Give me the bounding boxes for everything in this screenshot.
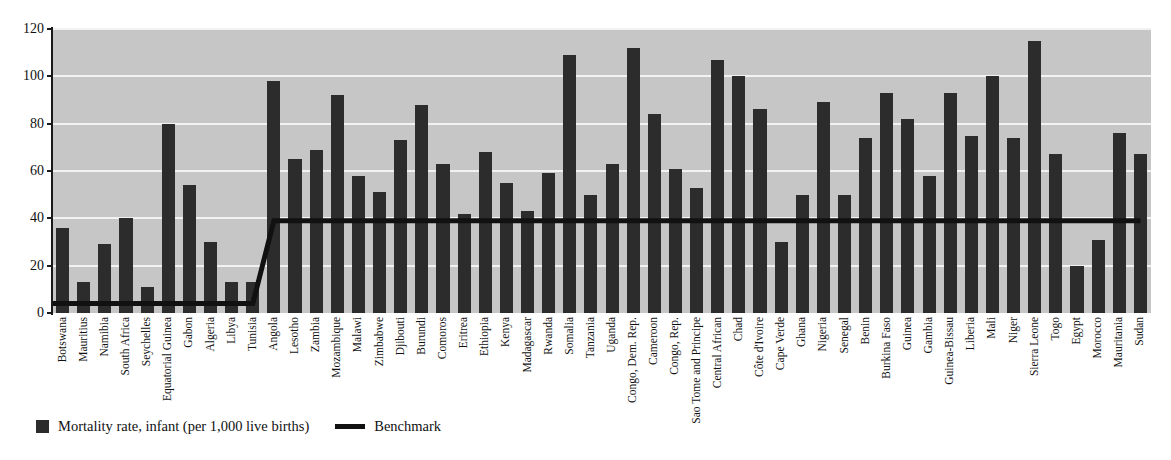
x-axis-tick: Zambia <box>306 317 327 397</box>
x-axis-tick-label: Equatorial Guinea <box>162 317 174 401</box>
x-axis-tick: Cape Verde <box>771 317 792 397</box>
x-axis-tick-label: Uganda <box>606 317 618 353</box>
x-axis-tick: Congo, Dem. Rep. <box>623 317 644 397</box>
x-axis-tick-label: Botswana <box>57 317 69 362</box>
x-axis-tick-label: South Africa <box>120 317 132 375</box>
y-axis-tick <box>47 28 53 30</box>
y-axis-tick-label: 60 <box>30 164 44 178</box>
x-axis-tick-label: Tanzania <box>585 317 597 358</box>
x-axis-tick: Ghana <box>792 317 813 397</box>
x-axis-labels: BotswanaMauritiusNamibiaSouth AfricaSeyc… <box>52 317 1151 397</box>
x-axis-tick: Eritrea <box>454 317 475 397</box>
x-axis-tick-label: Rwanda <box>543 317 555 355</box>
x-axis-tick-label: Cameroon <box>649 317 661 365</box>
x-axis-tick-label: Congo, Rep. <box>670 317 682 375</box>
legend-entry-benchmark: Benchmark <box>335 418 441 435</box>
x-axis-tick: Egypt <box>1066 317 1087 397</box>
x-axis-tick-label: Namibia <box>99 317 111 357</box>
x-axis-tick: Congo, Rep. <box>665 317 686 397</box>
x-axis-tick: Gabon <box>179 317 200 397</box>
x-axis-tick: Cameroon <box>644 317 665 397</box>
x-axis-tick: Côte d'Ivoire <box>749 317 770 397</box>
x-axis-tick-label: Burkina Faso <box>881 317 893 379</box>
x-axis-tick-label: Lesotho <box>289 317 301 354</box>
x-axis-tick: Libya <box>221 317 242 397</box>
x-axis-tick: Mauritius <box>73 317 94 397</box>
x-axis-tick-label: Central African <box>712 317 724 388</box>
x-axis-tick-label: Zambia <box>310 317 322 352</box>
x-axis-tick: Seychelles <box>137 317 158 397</box>
x-axis-tick-label: Egypt <box>1071 317 1083 344</box>
x-axis-tick: Madagascar <box>517 317 538 397</box>
x-axis-tick-label: Ghana <box>797 317 809 347</box>
benchmark-line <box>52 221 1140 304</box>
x-axis-tick: Kenya <box>496 317 517 397</box>
x-axis-tick: Malawi <box>348 317 369 397</box>
x-axis-tick-label: Mozambique <box>332 317 344 378</box>
x-axis-tick: South Africa <box>115 317 136 397</box>
x-axis-tick: Namibia <box>94 317 115 397</box>
y-axis-tick-label: 0 <box>37 306 44 320</box>
x-axis-tick: Gambia <box>919 317 940 397</box>
x-axis-tick-label: Chad <box>733 317 745 341</box>
x-axis-tick: Burkina Faso <box>876 317 897 397</box>
x-axis-tick: Guinea-Bissau <box>940 317 961 397</box>
x-axis-tick-label: Malawi <box>353 317 365 352</box>
x-axis-tick: Senegal <box>834 317 855 397</box>
x-axis-tick-label: Ethiopia <box>480 317 492 356</box>
x-axis-tick: Mauritania <box>1109 317 1130 397</box>
x-axis-tick-label: Gabon <box>184 317 196 348</box>
x-axis-tick: Equatorial Guinea <box>158 317 179 397</box>
x-axis-tick: Botswana <box>52 317 73 397</box>
x-axis-tick-label: Angola <box>268 317 280 351</box>
x-axis-tick-label: Senegal <box>839 317 851 353</box>
legend-label-mortality-rate: Mortality rate, infant (per 1,000 live b… <box>58 418 309 435</box>
x-axis-tick-label: Mali <box>987 317 999 339</box>
x-axis-tick-label: Sao Tome and Principe <box>691 317 703 424</box>
legend-label-benchmark: Benchmark <box>374 418 441 435</box>
x-axis-tick: Mozambique <box>327 317 348 397</box>
x-axis-tick: Sudan <box>1130 317 1151 397</box>
benchmark-line-layer <box>52 29 1151 313</box>
x-axis-tick-label: Togo <box>1050 317 1062 340</box>
x-axis-tick-label: Côte d'Ivoire <box>754 317 766 377</box>
x-axis-tick-label: Comoros <box>437 317 449 359</box>
x-axis-tick-label: Kenya <box>501 317 513 347</box>
x-axis-tick-label: Sierra Leone <box>1029 317 1041 376</box>
y-axis-tick <box>47 217 53 219</box>
x-axis-tick-label: Liberia <box>966 317 978 350</box>
x-axis-tick: Togo <box>1045 317 1066 397</box>
x-axis-tick: Mali <box>982 317 1003 397</box>
x-axis-tick-label: Somalia <box>564 317 576 355</box>
y-axis-tick <box>47 265 53 267</box>
x-axis-tick-label: Gambia <box>923 317 935 353</box>
x-axis-tick: Ethiopia <box>475 317 496 397</box>
plot-area <box>52 29 1151 313</box>
x-axis-tick: Lesotho <box>284 317 305 397</box>
y-axis-tick <box>47 170 53 172</box>
legend-entry-mortality-rate: Mortality rate, infant (per 1,000 live b… <box>36 418 309 435</box>
x-axis-tick: Angola <box>263 317 284 397</box>
x-axis-tick: Sierra Leone <box>1024 317 1045 397</box>
x-axis-tick-label: Algeria <box>205 317 217 351</box>
x-axis-tick: Rwanda <box>538 317 559 397</box>
x-axis-tick: Somalia <box>559 317 580 397</box>
x-axis-tick: Burundi <box>411 317 432 397</box>
x-axis-tick: Morocco <box>1088 317 1109 397</box>
chart-legend: Mortality rate, infant (per 1,000 live b… <box>36 418 441 435</box>
x-axis-tick-label: Djibouti <box>395 317 407 355</box>
x-axis-tick: Benin <box>855 317 876 397</box>
x-axis-tick: Chad <box>728 317 749 397</box>
x-axis-tick-label: Cape Verde <box>775 317 787 370</box>
x-axis-tick-label: Guinea-Bissau <box>944 317 956 385</box>
x-axis-tick-label: Tunisia <box>247 317 259 351</box>
infant-mortality-bar-chart: 020406080100120 BotswanaMauritiusNamibia… <box>0 0 1171 460</box>
y-axis-tick <box>47 123 53 125</box>
y-axis-tick-label: 40 <box>30 211 44 225</box>
x-axis-tick-label: Benin <box>860 317 872 344</box>
x-axis-tick-label: Eritrea <box>458 317 470 348</box>
y-axis-tick-label: 20 <box>30 259 44 273</box>
x-axis-tick: Tunisia <box>242 317 263 397</box>
x-axis-tick: Sao Tome and Principe <box>686 317 707 397</box>
x-axis-tick-label: Niger <box>1008 317 1020 343</box>
